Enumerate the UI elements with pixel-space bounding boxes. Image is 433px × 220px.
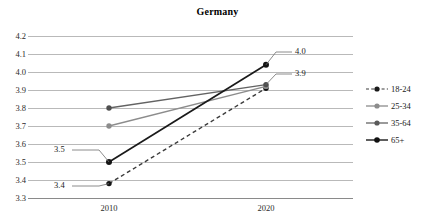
data-point-25-34: [106, 123, 111, 128]
data-label-3-9: 3.9: [295, 68, 306, 78]
data-label-4-0: 4.0: [295, 46, 306, 56]
legend-item-65-plus[interactable]: 65+: [366, 134, 433, 146]
line-chart: Germany 4.2 4.1 4.0 3.9 3.8 3.7 3.6 3.5 …: [0, 0, 433, 220]
legend-label-25-34: 25-34: [391, 101, 411, 111]
legend-label-65-plus: 65+: [391, 135, 404, 145]
x-tick-label-2020: 2020: [236, 203, 296, 213]
annotation-leader-line: [72, 184, 109, 186]
chart-legend: 18-24 25-34 35-64 65+: [366, 83, 433, 151]
legend-label-35-64: 35-64: [391, 118, 411, 128]
x-tick-label-2010: 2010: [79, 203, 139, 213]
legend-label-18-24: 18-24: [391, 84, 411, 94]
legend-key-18-24: [366, 83, 388, 95]
series-line-65-plus: [109, 65, 266, 162]
legend-key-65-plus: [366, 134, 388, 146]
series-line-18-24: [109, 88, 266, 183]
annotation-leader-line: [266, 52, 292, 65]
legend-item-35-64[interactable]: 35-64: [366, 117, 433, 129]
annotation-leader-line: [266, 74, 292, 85]
annotation-leader-line: [72, 150, 109, 162]
data-label-3-5: 3.5: [54, 144, 65, 154]
data-point-35-64: [106, 105, 111, 110]
legend-item-25-34[interactable]: 25-34: [366, 100, 433, 112]
legend-item-18-24[interactable]: 18-24: [366, 83, 433, 95]
series-line-35-64: [109, 85, 266, 108]
series-line-25-34: [109, 86, 266, 126]
legend-key-25-34: [366, 100, 388, 112]
legend-key-35-64: [366, 117, 388, 129]
data-label-3-4: 3.4: [54, 180, 65, 190]
